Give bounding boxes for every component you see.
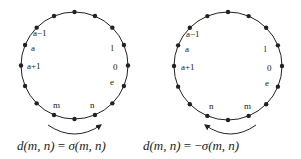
vertex-label: 0 (113, 62, 118, 72)
vertex-label: a−1 (186, 29, 200, 39)
vertex-dot (176, 84, 180, 88)
vertex-dot (188, 102, 192, 106)
vertex-dot (93, 113, 97, 117)
vertex-label: a (185, 44, 189, 54)
vertex-dot (72, 10, 76, 14)
vertex-dot (122, 84, 126, 88)
vertex-dot (23, 84, 27, 88)
vertex-dot (176, 43, 180, 47)
vertex-label: a (31, 43, 35, 53)
vertex-label: a−1 (33, 28, 47, 38)
vertex-dot (52, 113, 56, 117)
vertex-dot (172, 64, 176, 68)
panel-left: a−1aa+1l0emn d(m, n) = σ(m, n) (17, 10, 130, 153)
vertex-dot (205, 114, 209, 118)
vertex-dot (264, 102, 268, 106)
vertex-dot (246, 14, 250, 18)
vertex-label: a+1 (27, 61, 41, 71)
vertex-label: m (244, 101, 251, 111)
vertex-label: n (90, 100, 95, 110)
vertex-label: 0 (267, 63, 272, 73)
vertex-dot (23, 43, 27, 47)
vertex-dot (226, 10, 230, 14)
vertex-dot (110, 25, 114, 29)
vertex-dot (226, 118, 230, 122)
vertex-dot (72, 117, 76, 121)
counterclockwise-arrow-icon (205, 125, 256, 134)
vertex-label: n (209, 101, 214, 111)
vertex-dot (110, 101, 114, 105)
vertex-label: e (110, 77, 114, 87)
vertex-label: m (53, 100, 60, 110)
vertex-dot (122, 43, 126, 47)
vertex-dot (93, 14, 97, 18)
vertex-dot (246, 114, 250, 118)
vertex-label: l (111, 43, 114, 53)
vertex-dot (19, 63, 23, 67)
panel-right: a−1aa+1l0enm d(m, n) = −σ(m, n) (143, 10, 284, 153)
vertex-dot (276, 43, 280, 47)
vertex-labels-left: a−1aa+1l0emn (27, 28, 118, 110)
vertex-dot (276, 84, 280, 88)
vertex-label: l (264, 44, 267, 54)
vertex-dot (52, 14, 56, 18)
vertex-dot (205, 14, 209, 18)
vertex-label: e (265, 78, 269, 88)
formula-left: d(m, n) = σ(m, n) (17, 138, 106, 153)
vertex-dot (126, 63, 130, 67)
vertex-label: a+1 (181, 62, 195, 72)
formula-right: d(m, n) = −σ(m, n) (143, 138, 239, 153)
clockwise-arrow-icon (48, 125, 101, 134)
vertex-dot (264, 26, 268, 30)
vertex-dot (280, 64, 284, 68)
vertex-dot (34, 101, 38, 105)
diagram-canvas: a−1aa+1l0emn d(m, n) = σ(m, n) a−1aa+1l0… (0, 0, 301, 159)
vertex-labels-right: a−1aa+1l0enm (181, 29, 272, 111)
